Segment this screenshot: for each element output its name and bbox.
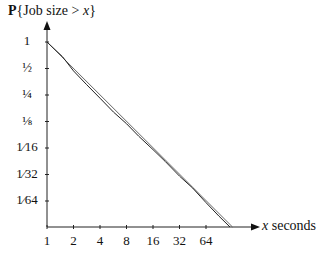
y-tick-label: ⅛ bbox=[12, 113, 42, 129]
x-tick-label: 1 bbox=[35, 233, 59, 249]
x-tick-label: 4 bbox=[88, 233, 112, 249]
y-axis-arrow-icon bbox=[44, 21, 51, 30]
y-tick-label: 1⁄64 bbox=[12, 192, 42, 208]
x-axis-label: x seconds bbox=[262, 218, 316, 234]
x-tick-label: 32 bbox=[168, 233, 192, 249]
y-tick-label: 1⁄32 bbox=[12, 166, 42, 182]
x-tick-label: 2 bbox=[62, 233, 86, 249]
y-tick-label: ½ bbox=[12, 60, 42, 76]
y-tick-label: 1⁄16 bbox=[12, 139, 42, 155]
y-tick-label: 1 bbox=[12, 33, 42, 49]
y-tick-label: ¼ bbox=[12, 86, 42, 102]
pareto-fit-line bbox=[47, 42, 233, 227]
x-axis-arrow-icon bbox=[251, 224, 260, 231]
x-tick-label: 64 bbox=[194, 233, 218, 249]
x-axis-unit: seconds bbox=[268, 218, 316, 233]
x-tick-label: 16 bbox=[141, 233, 165, 249]
x-tick-label: 8 bbox=[115, 233, 139, 249]
